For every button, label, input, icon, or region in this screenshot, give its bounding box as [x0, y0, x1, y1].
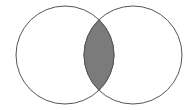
- venn-diagram: [0, 0, 191, 110]
